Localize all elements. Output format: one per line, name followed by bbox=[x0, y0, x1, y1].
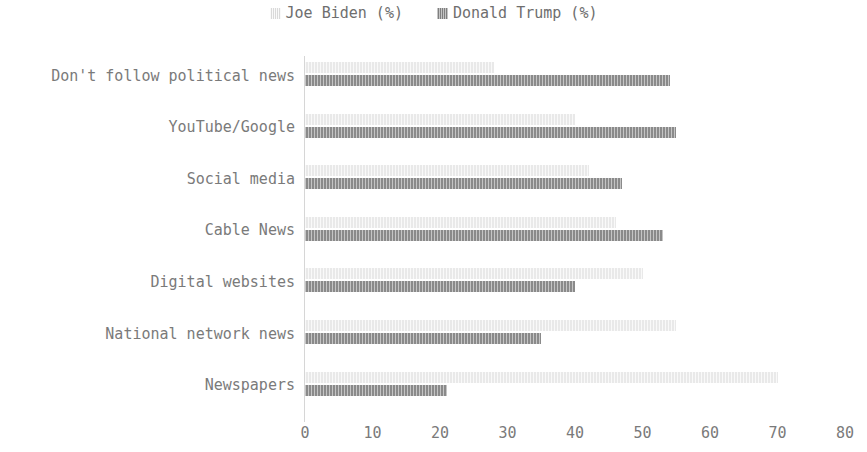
bar-donald-trump bbox=[305, 281, 575, 292]
x-axis-tick: 20 bbox=[431, 424, 449, 442]
x-axis-tick: 80 bbox=[836, 424, 854, 442]
category-label: Newspapers bbox=[205, 377, 295, 393]
x-axis-tick: 70 bbox=[768, 424, 786, 442]
category-label: Digital websites bbox=[151, 274, 296, 290]
x-axis-tick: 50 bbox=[633, 424, 651, 442]
bar-donald-trump bbox=[305, 75, 670, 86]
bar-donald-trump bbox=[305, 178, 622, 189]
category-label: Cable News bbox=[205, 222, 295, 238]
x-axis-tick: 0 bbox=[300, 424, 309, 442]
bar-joe-biden bbox=[305, 320, 676, 331]
category-label: Social media bbox=[187, 171, 295, 187]
plot-area: Don't follow political newsYouTube/Googl… bbox=[0, 0, 867, 452]
bar-joe-biden bbox=[305, 62, 494, 73]
category-label: National network news bbox=[105, 326, 295, 342]
category-label: YouTube/Google bbox=[169, 119, 295, 135]
x-axis-tick: 30 bbox=[498, 424, 516, 442]
bar-donald-trump bbox=[305, 127, 676, 138]
bar-joe-biden bbox=[305, 114, 575, 125]
bar-joe-biden bbox=[305, 268, 643, 279]
horizontal-bar-chart: Joe Biden (%) Donald Trump (%) Don't fol… bbox=[0, 0, 867, 452]
x-axis-tick: 40 bbox=[566, 424, 584, 442]
bar-joe-biden bbox=[305, 217, 616, 228]
x-axis-tick-labels: 01020304050607080 bbox=[0, 424, 867, 452]
bar-donald-trump bbox=[305, 333, 541, 344]
bar-joe-biden bbox=[305, 372, 778, 383]
x-axis-tick: 10 bbox=[363, 424, 381, 442]
bar-donald-trump bbox=[305, 230, 663, 241]
bar-joe-biden bbox=[305, 165, 589, 176]
bar-donald-trump bbox=[305, 385, 447, 396]
x-axis-tick: 60 bbox=[701, 424, 719, 442]
category-label: Don't follow political news bbox=[51, 68, 295, 84]
